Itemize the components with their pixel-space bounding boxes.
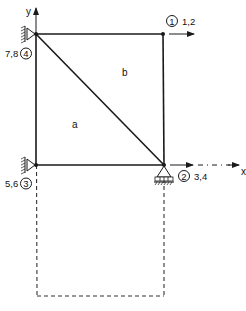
element-label-a: a [72, 119, 78, 130]
node-1-dot [161, 32, 165, 36]
node-2-number: 2 [181, 171, 186, 182]
node-1-number: 1 [169, 16, 174, 27]
node-3-dofs: 5,6 [5, 178, 18, 189]
node-4: 7,8 4 [5, 26, 38, 59]
deformed-shape [37, 165, 165, 296]
node-1-dofs: 1,2 [182, 16, 195, 27]
edge-4-2-diagonal [36, 34, 164, 165]
x-axis-label: x [241, 166, 246, 177]
node-4-number: 4 [23, 48, 28, 59]
node-4-dofs: 7,8 [5, 48, 18, 59]
deformed-left-edge [37, 165, 38, 296]
node-3-number: 3 [23, 178, 28, 189]
mesh [36, 34, 164, 165]
y-axis-label: y [26, 6, 31, 17]
pin-support-icon [21, 26, 35, 43]
fem-diagram: y x a b 1 1,2 [0, 0, 246, 311]
node-2-dofs: 3,4 [194, 171, 207, 182]
node-3: 5,6 3 [5, 157, 38, 189]
roller-support-icon [154, 166, 174, 185]
node-2: 2 3,4 [154, 163, 207, 185]
node-1: 1 1,2 [161, 16, 195, 37]
element-label-b: b [122, 67, 128, 78]
pin-support-icon [21, 157, 35, 174]
edge-1-2 [163, 34, 164, 165]
